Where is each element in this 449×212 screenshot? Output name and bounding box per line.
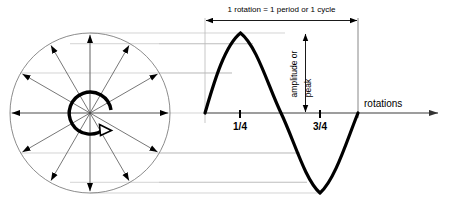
radius-vectors	[12, 35, 168, 191]
amplitude-label-primary: amplitude or	[289, 50, 299, 97]
radius-vector-300deg	[90, 113, 129, 181]
sine-wave-rotation-figure: 1 rotation = 1 period or 1 cycle rotatio…	[0, 0, 449, 212]
tick-label-three-quarter: 3/4	[313, 121, 327, 132]
circular-arrow-head	[100, 125, 112, 136]
x-axis-label: rotations	[364, 98, 402, 109]
rotating-vector-circle	[10, 33, 170, 193]
figure-canvas: 1 rotation = 1 period or 1 cycle rotatio…	[0, 0, 449, 212]
amplitude-label-secondary: peak	[303, 78, 313, 97]
wave-plot: 1 rotation = 1 period or 1 cycle rotatio…	[205, 5, 438, 193]
tick-label-quarter: 1/4	[233, 121, 247, 132]
period-label: 1 rotation = 1 period or 1 cycle	[228, 5, 336, 14]
